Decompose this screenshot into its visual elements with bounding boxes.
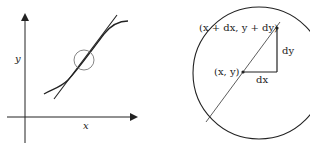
function-curve [44,21,128,94]
left-panel: y x [7,15,136,143]
neighbor-point-label: (x + dx, y + dy) [199,22,278,33]
y-axis-label: y [14,53,21,64]
dy-label: dy [282,45,294,56]
diagram-canvas: y x (x, y) (x + dx, y + dy) dx dy [0,0,310,148]
point-xy [241,70,244,73]
tangent-line [54,15,117,99]
dx-label: dx [256,74,268,85]
x-axis-label: x [83,120,89,131]
right-panel: (x, y) (x + dx, y + dy) dx dy [193,7,310,139]
point-xy-label: (x, y) [214,66,240,77]
